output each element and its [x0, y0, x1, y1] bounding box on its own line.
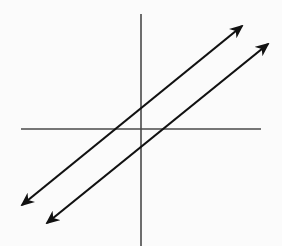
- parallel-line-a: [22, 26, 242, 205]
- parallel-line-b: [47, 44, 268, 223]
- parallel-lines-diagram: [0, 0, 282, 246]
- diagram-canvas: Two parallel lines on coordinate axes: [0, 0, 282, 246]
